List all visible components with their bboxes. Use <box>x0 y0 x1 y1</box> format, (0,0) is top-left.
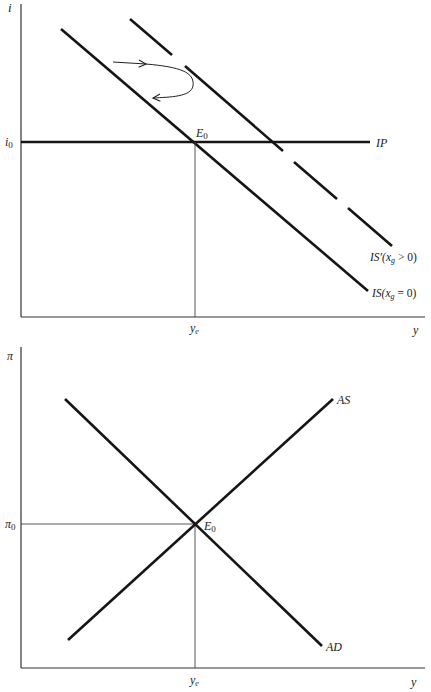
bottom-x-axis-label: y <box>410 675 417 689</box>
pi0-label: π0 <box>5 517 16 532</box>
top-equilibrium-label: E0 <box>195 126 208 141</box>
bottom-equilibrium-label: E0 <box>203 519 216 534</box>
ip-label: IP <box>375 136 388 150</box>
is-prime-dashed-curve <box>130 19 392 246</box>
is-curve <box>61 29 368 291</box>
is-prime-dash <box>130 19 172 55</box>
bottom-panel-as-ad: π y π0 AD AS E0 ye <box>5 347 425 689</box>
diagram-canvas: i y i0 IP IS(xg = 0) IS′(xg > 0) E0 ye π… <box>0 0 431 692</box>
i0-label: i0 <box>5 135 13 150</box>
is-label: IS(xg = 0) <box>371 287 417 301</box>
is-prime-dash <box>294 162 337 199</box>
bottom-y-axis-label: π <box>7 349 14 363</box>
as-curve <box>68 399 333 640</box>
shift-arrow <box>113 62 193 98</box>
is-prime-label: IS′(xg > 0) <box>369 251 417 265</box>
bottom-ye-label: ye <box>189 673 199 688</box>
top-x-axis-label: y <box>412 323 419 337</box>
arrow-right-icon <box>113 62 146 64</box>
as-label: AS <box>336 393 350 407</box>
top-ye-label: ye <box>189 321 199 336</box>
is-prime-dash <box>348 208 392 246</box>
arrow-return-icon <box>146 64 193 98</box>
top-y-axis-label: i <box>8 0 12 15</box>
top-panel-is-ip: i y i0 IP IS(xg = 0) IS′(xg > 0) E0 ye <box>5 0 425 337</box>
ad-label: AD <box>325 640 342 654</box>
